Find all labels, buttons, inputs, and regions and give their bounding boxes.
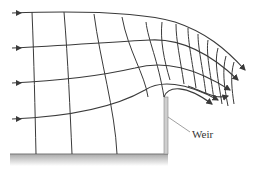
- weir-plate: [164, 97, 168, 154]
- flow-net-diagram: Weir: [0, 0, 263, 170]
- inflow-arrows: [16, 10, 22, 122]
- streamlines: [12, 12, 245, 119]
- channel-bed: [10, 154, 168, 166]
- weir-label: Weir: [192, 128, 213, 140]
- flow-net-figure: [0, 0, 263, 170]
- weir-leader-line: [168, 117, 190, 132]
